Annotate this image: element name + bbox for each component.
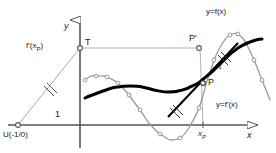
fprime-value-main: f'(x	[26, 41, 36, 50]
y-axis-label: y	[64, 22, 69, 31]
construction-line-U-to-T	[18, 48, 80, 125]
x-p-label: xP	[198, 130, 206, 140]
point-U-label: U(-1/0)	[3, 131, 28, 139]
vertical-guide-Pprime-to-xP	[200, 48, 203, 125]
function-curve-label: y=f(x)	[206, 8, 226, 16]
x-axis-label: x	[247, 131, 252, 140]
point-T	[78, 46, 83, 51]
point-U	[16, 123, 21, 128]
point-T-label: T	[85, 38, 91, 47]
fprime-value-closing: )	[40, 41, 43, 50]
point-P	[201, 81, 206, 86]
point-P-prime	[197, 46, 202, 51]
x-p-label-subscript: P	[202, 134, 206, 140]
point-P-prime-label: P'	[189, 34, 197, 43]
derivative-curve-label: y=f'(x)	[216, 101, 238, 109]
point-P-label: P	[208, 78, 214, 87]
unit-length-label: 1	[55, 110, 60, 119]
fprime-value-label: f'(xP)	[26, 42, 43, 52]
tangent-label: t	[219, 62, 222, 71]
figure-canvas	[0, 0, 276, 153]
derivative-construction-diagram: y x y=f(x) y=f'(x) t T P' P f'(xP) 1 U(-…	[0, 0, 276, 153]
